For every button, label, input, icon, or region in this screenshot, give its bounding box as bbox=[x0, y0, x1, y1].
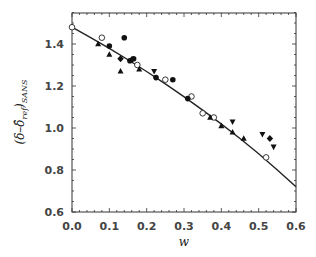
y-tick-label: 1.2 bbox=[45, 80, 65, 93]
data-points bbox=[69, 24, 276, 160]
x-tick-label: 0.2 bbox=[137, 220, 157, 233]
open-circle-marker bbox=[200, 111, 206, 117]
open-circle-marker bbox=[163, 77, 169, 83]
filled-circle-marker bbox=[170, 77, 176, 83]
y-axis-label: (δ–δ̂ref)SANS bbox=[13, 79, 29, 145]
open-circle-marker bbox=[99, 35, 105, 41]
y-tick-label: 1.0 bbox=[45, 122, 65, 135]
open-circle-marker bbox=[69, 24, 75, 30]
x-axis-label: w bbox=[179, 235, 190, 249]
scatter-chart: 0.00.10.20.30.40.50.6 0.60.81.01.21.4 w … bbox=[0, 0, 316, 257]
filled-circle-marker bbox=[153, 75, 159, 81]
plot-frame bbox=[72, 13, 296, 212]
triangle-down-marker bbox=[230, 119, 236, 125]
fit-curve bbox=[72, 27, 296, 187]
x-tick-label: 0.6 bbox=[286, 220, 306, 233]
x-tick-label: 0.0 bbox=[62, 220, 82, 233]
fit-curve-line bbox=[72, 27, 296, 187]
y-tick-label: 0.8 bbox=[45, 164, 65, 177]
y-axis-label-main: (δ–δ̂ bbox=[13, 119, 27, 144]
y-tick-label: 1.4 bbox=[45, 38, 65, 51]
filled-circle-marker bbox=[121, 35, 127, 41]
triangle-down-marker bbox=[259, 132, 265, 138]
open-circle-marker bbox=[263, 155, 269, 161]
triangle-down-marker bbox=[151, 69, 157, 75]
y-tick-label: 0.6 bbox=[45, 206, 65, 219]
diamond-marker bbox=[267, 135, 273, 142]
x-tick-label: 0.3 bbox=[174, 220, 194, 233]
x-tick-labels: 0.00.10.20.30.40.50.6 bbox=[62, 220, 306, 233]
triangle-up-marker bbox=[241, 135, 247, 141]
plot-border bbox=[72, 13, 296, 212]
axis-ticks bbox=[72, 13, 296, 213]
triangle-up-marker bbox=[118, 68, 124, 74]
filled-circle-marker bbox=[107, 43, 113, 49]
filled-circle-marker bbox=[185, 96, 191, 102]
triangle-down-marker bbox=[271, 145, 277, 151]
y-tick-labels: 0.60.81.01.21.4 bbox=[45, 38, 65, 219]
y-axis-label-sub-sans: SANS bbox=[20, 79, 29, 103]
triangle-up-marker bbox=[106, 51, 112, 57]
x-tick-label: 0.1 bbox=[100, 220, 120, 233]
x-tick-label: 0.5 bbox=[249, 220, 269, 233]
x-tick-label: 0.4 bbox=[212, 220, 232, 233]
